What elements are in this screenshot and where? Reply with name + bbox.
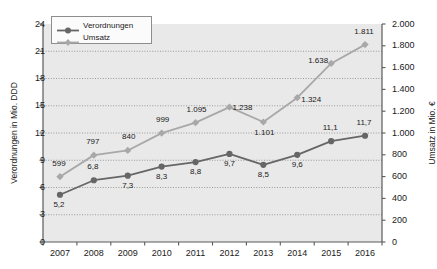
data-label-verordnungen: 11,7	[347, 119, 381, 127]
legend-label-umsatz: Umsatz	[83, 33, 110, 42]
left-axis-tick-label: 6	[40, 183, 45, 192]
data-label-umsatz: 1.811	[347, 28, 381, 36]
legend-swatch-diamond-icon	[57, 33, 79, 42]
data-label-umsatz: 1.238	[225, 104, 259, 112]
data-label-umsatz: 1.324	[294, 96, 328, 104]
legend-item-verordnungen: Verordnungen	[57, 20, 147, 31]
left-axis-tick-label: 21	[35, 47, 45, 56]
data-label-umsatz: 599	[42, 160, 76, 168]
data-label-verordnungen: 8,5	[246, 171, 280, 179]
right-axis-tick-label: 1.800	[392, 41, 415, 50]
left-axis-tick-label: 12	[35, 129, 45, 138]
right-axis-tick-label: 2.000	[392, 20, 415, 29]
data-label-verordnungen: 6,8	[76, 163, 110, 171]
chart-legend: Verordnungen Umsatz	[51, 16, 152, 44]
data-label-verordnungen: 8,3	[145, 173, 179, 181]
left-axis-title: Verordnungen in Mio. DDD	[9, 73, 19, 193]
legend-label-verordnungen: Verordnungen	[83, 21, 133, 30]
data-label-verordnungen: 11,1	[313, 124, 347, 132]
data-label-verordnungen: 5,2	[42, 201, 76, 209]
data-label-umsatz: 1.638	[301, 57, 335, 65]
right-axis-tick-label: 1.000	[392, 129, 415, 138]
data-label-umsatz: 797	[76, 138, 110, 146]
data-label-umsatz: 840	[112, 133, 146, 141]
right-axis-tick-label: 400	[392, 194, 407, 203]
right-axis-tick-label: 600	[392, 172, 407, 181]
right-axis-tick-label: 800	[392, 150, 407, 159]
data-label-umsatz: 1.095	[180, 106, 214, 114]
x-axis-tick-label: 2016	[345, 248, 385, 258]
left-axis-tick-label: 15	[35, 101, 45, 110]
left-axis-tick-label: 18	[35, 74, 45, 83]
gridlines	[43, 51, 382, 215]
right-axis-tick-label: 1.600	[392, 63, 415, 72]
data-label-verordnungen: 9,6	[280, 161, 314, 169]
right-axis-tick-label: 0	[392, 238, 397, 247]
left-axis-tick-label: 3	[40, 210, 45, 219]
legend-swatch-circle-icon	[57, 21, 79, 30]
right-axis-tick-label: 1.200	[392, 107, 415, 116]
right-axis-tick-label: 200	[392, 216, 407, 225]
right-axis-title: Umsatz in Mio. €	[427, 73, 437, 193]
right-axis-tick-label: 1.400	[392, 85, 415, 94]
data-label-umsatz: 1.101	[247, 129, 281, 137]
left-axis-tick-label: 0	[40, 238, 45, 247]
data-label-verordnungen: 9,7	[212, 160, 246, 168]
legend-item-umsatz: Umsatz	[57, 32, 147, 43]
left-axis-tick-label: 24	[35, 20, 45, 29]
data-label-umsatz: 999	[146, 116, 180, 124]
data-label-verordnungen: 8,8	[179, 168, 213, 176]
data-label-verordnungen: 7,3	[111, 182, 145, 190]
